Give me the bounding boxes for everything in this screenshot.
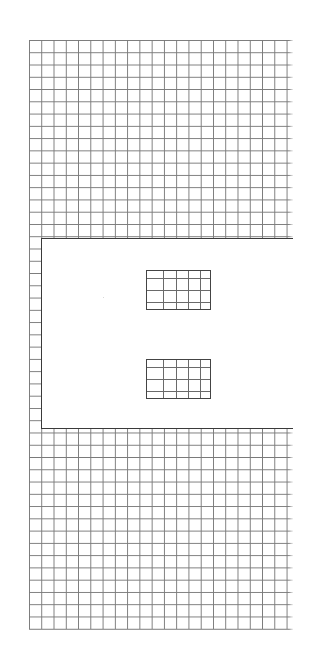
upper-grid-window: upper-grid-window [146,270,211,310]
stray-mark [103,297,104,298]
blank-panel [41,238,293,429]
lower-grid-window: lower-grid-window [146,359,211,399]
